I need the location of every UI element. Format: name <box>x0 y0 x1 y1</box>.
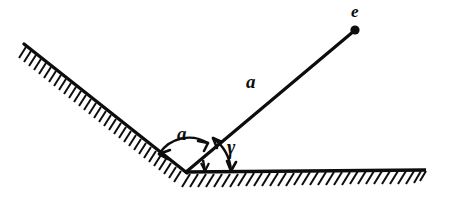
figure-canvas: a γ a e <box>0 0 449 203</box>
angle-alpha-label: a <box>177 124 187 143</box>
segment-a-label: a <box>246 72 256 91</box>
angle-gamma-label: γ <box>227 137 235 157</box>
point-e-label: e <box>351 3 359 20</box>
diagram-svg <box>0 0 449 203</box>
endpoint-dot <box>350 25 359 34</box>
